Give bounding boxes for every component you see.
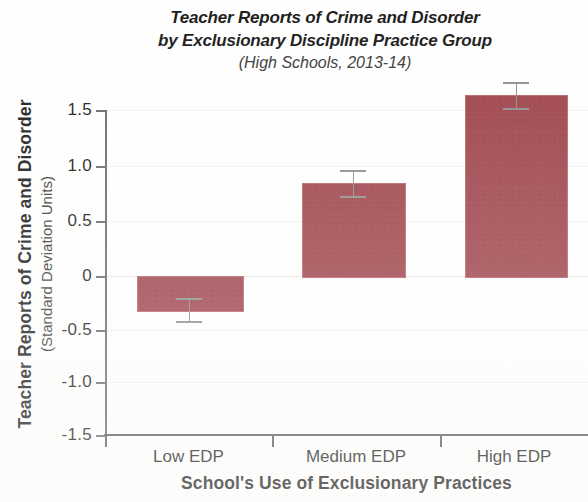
error-bar-low-edp bbox=[189, 298, 191, 322]
bar-low-edp bbox=[137, 276, 244, 312]
y-tick-label-1-0: 1.0 bbox=[12, 157, 92, 174]
y-tick-mark-neg-0-5 bbox=[96, 330, 105, 332]
gridline-neg-1-0 bbox=[106, 382, 588, 383]
error-bar-high-edp bbox=[516, 82, 518, 110]
error-cap-upper-high-edp bbox=[503, 82, 529, 84]
y-tick-label-1-5: 1.5 bbox=[12, 101, 92, 118]
y-tick-label-neg-0-5: -0.5 bbox=[12, 321, 92, 338]
error-cap-lower-low-edp bbox=[176, 321, 202, 323]
y-tick-mark-0-5 bbox=[96, 221, 105, 223]
bar-high-edp bbox=[465, 95, 568, 278]
y-tick-label-neg-1-5: -1.5 bbox=[12, 426, 92, 443]
error-cap-lower-high-edp bbox=[503, 108, 529, 110]
chart-title-line-2: by Exclusionary Discipline Practice Grou… bbox=[90, 29, 560, 52]
y-tick-label-neg-1-0: -1.0 bbox=[12, 373, 92, 390]
chart-title: Teacher Reports of Crime and Disorder by… bbox=[90, 6, 560, 74]
y-tick-mark-neg-1-5 bbox=[96, 435, 105, 437]
x-tick-label-high-edp: High EDP bbox=[440, 446, 588, 468]
y-tick-mark-neg-1-0 bbox=[96, 382, 105, 384]
y-tick-mark-1-0 bbox=[96, 166, 105, 168]
chart-subtitle: (High Schools, 2013-14) bbox=[90, 52, 560, 74]
error-cap-lower-medium-edp bbox=[340, 196, 366, 198]
x-axis-line bbox=[104, 434, 588, 436]
y-tick-label-0: 0 bbox=[12, 267, 92, 284]
gridline-neg-0-5 bbox=[106, 330, 588, 331]
x-tick-label-medium-edp: Medium EDP bbox=[272, 446, 440, 468]
chart-title-line-1: Teacher Reports of Crime and Disorder bbox=[90, 6, 560, 29]
y-tick-label-0-5: 0.5 bbox=[12, 212, 92, 229]
chart-figure: Teacher Reports of Crime and Disorder by… bbox=[0, 0, 588, 502]
error-bar-medium-edp bbox=[353, 170, 355, 198]
x-axis-title: School's Use of Exclusionary Practices bbox=[105, 473, 588, 494]
error-cap-upper-low-edp bbox=[176, 298, 202, 300]
x-tick-label-low-edp: Low EDP bbox=[105, 446, 272, 468]
error-cap-upper-medium-edp bbox=[340, 170, 366, 172]
y-tick-mark-0 bbox=[96, 276, 105, 278]
y-axis-line bbox=[105, 110, 107, 436]
y-tick-mark-1-5 bbox=[96, 110, 105, 112]
